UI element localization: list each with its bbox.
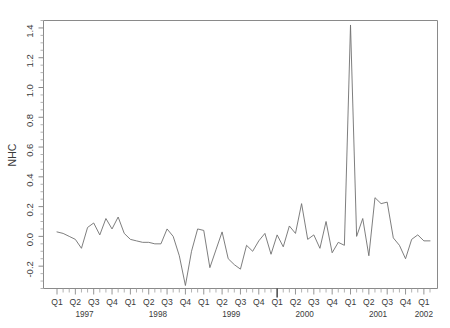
nhc-line-chart: NHC -0.20.00.20.40.60.81.01.21.4 Q1Q2Q3Q…	[0, 0, 450, 328]
x-year-label: 1997	[75, 310, 94, 319]
x-quarter-label: Q2	[290, 297, 302, 307]
x-quarter-label: Q1	[271, 297, 283, 307]
x-quarter-label: Q1	[345, 297, 357, 307]
y-axis-ticks: -0.20.00.20.40.60.81.01.21.4	[24, 25, 44, 278]
x-quarter-label: Q1	[125, 297, 137, 307]
x-year-label: 2002	[415, 310, 434, 319]
chart-container: NHC -0.20.00.20.40.60.81.01.21.4 Q1Q2Q3Q…	[0, 0, 450, 328]
y-tick-label: 0.8	[24, 114, 35, 127]
y-tick-label: 0.4	[24, 173, 35, 186]
x-quarter-label: Q2	[70, 297, 82, 307]
x-quarter-label: Q4	[180, 297, 192, 307]
x-quarter-label: Q2	[363, 297, 375, 307]
x-quarter-label: Q2	[143, 297, 155, 307]
y-tick-label: 0.2	[24, 203, 35, 216]
x-year-label: 2001	[369, 310, 388, 319]
series-line-nhc	[57, 25, 430, 286]
y-tick-label: 1.0	[24, 84, 35, 97]
y-tick-label: 1.4	[24, 25, 35, 38]
x-quarter-label: Q1	[198, 297, 210, 307]
x-quarter-label: Q1	[51, 297, 63, 307]
x-quarter-label: Q1	[418, 297, 430, 307]
x-year-label: 2000	[296, 310, 315, 319]
x-quarter-label: Q3	[308, 297, 320, 307]
y-tick-label: 1.2	[24, 54, 35, 67]
x-quarter-label: Q4	[400, 297, 412, 307]
x-quarter-label: Q4	[106, 297, 118, 307]
x-quarter-label: Q3	[235, 297, 247, 307]
x-quarter-label: Q4	[326, 297, 338, 307]
x-quarter-label: Q2	[216, 297, 228, 307]
x-year-label: 1998	[149, 310, 168, 319]
y-axis-title: NHC	[6, 143, 18, 166]
x-quarter-label: Q4	[253, 297, 265, 307]
y-tick-label: -0.2	[24, 261, 35, 277]
y-tick-label: 0.0	[24, 233, 35, 246]
x-year-label: 1999	[222, 310, 241, 319]
x-quarter-label: Q3	[88, 297, 100, 307]
x-axis-quarter-labels: Q1Q2Q3Q4Q1Q2Q3Q4Q1Q2Q3Q4Q1Q2Q3Q4Q1Q2Q3Q4…	[51, 297, 430, 307]
x-axis-year-labels: 199719981999200020012002	[75, 310, 433, 319]
x-quarter-label: Q3	[381, 297, 393, 307]
x-quarter-label: Q3	[161, 297, 173, 307]
y-tick-label: 0.6	[24, 144, 35, 157]
